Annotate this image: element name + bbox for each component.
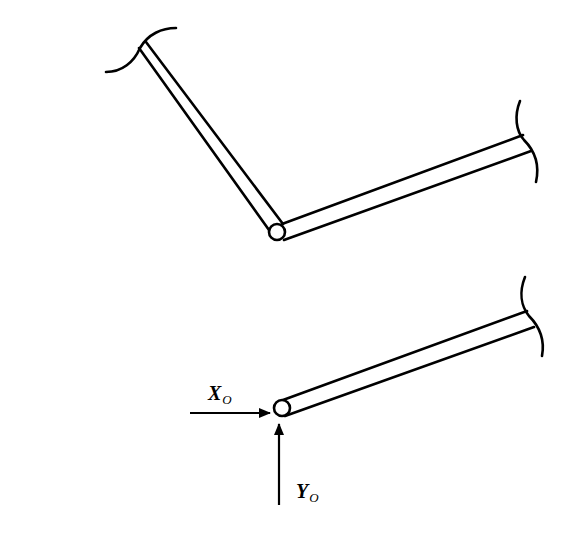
break-arc-lower-right-icon xyxy=(522,277,543,356)
break-arc-right-icon xyxy=(517,101,538,182)
pin-joint-icon xyxy=(269,224,285,240)
x-reaction-label-main: X xyxy=(208,382,221,404)
diagram-drawing xyxy=(0,0,573,543)
y-reaction-label-main: Y xyxy=(296,480,308,502)
x-reaction-label: XO xyxy=(208,383,232,406)
x-reaction-label-sub: O xyxy=(222,392,231,407)
right-bar xyxy=(282,135,531,240)
inclined-bar xyxy=(139,42,283,230)
y-reaction-label: YO xyxy=(296,481,319,504)
diagram-canvas: XO YO xyxy=(0,0,573,543)
lower-assembly xyxy=(274,277,543,416)
pin-o-icon xyxy=(274,400,290,416)
free-body-bar xyxy=(283,311,534,416)
y-reaction-label-sub: O xyxy=(309,490,318,505)
upper-assembly xyxy=(106,28,537,240)
